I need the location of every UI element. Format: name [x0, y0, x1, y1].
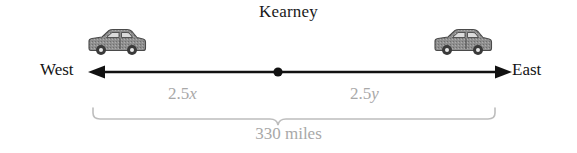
- car-west: [86, 26, 148, 62]
- axis-arrow: [88, 66, 512, 79]
- arrowhead-east-icon: [495, 66, 512, 79]
- west-segment-variable: x: [189, 84, 197, 103]
- car-icon: [432, 26, 494, 58]
- east-segment-label: 2.5y: [350, 84, 379, 104]
- car-wheel-rear-hub: [130, 48, 134, 52]
- car-icon: [86, 26, 148, 58]
- car-wheel-rear-hub: [476, 48, 480, 52]
- total-distance-label: 330 miles: [0, 124, 577, 144]
- midpoint-dot-icon: [273, 67, 282, 76]
- west-segment-coefficient: 2.5: [168, 84, 189, 103]
- brace-path: [93, 108, 495, 125]
- west-segment-label: 2.5x: [168, 84, 197, 104]
- car-wheel-front-hub: [99, 48, 103, 52]
- east-segment-variable: y: [371, 84, 379, 103]
- east-segment-coefficient: 2.5: [350, 84, 371, 103]
- car-east: [432, 26, 494, 62]
- car-wheel-front-hub: [445, 48, 449, 52]
- distance-diagram: Kearney West East 2.5x 2.5y 330 miles: [0, 0, 577, 153]
- arrowhead-west-icon: [88, 66, 105, 79]
- total-distance-brace: [93, 108, 495, 125]
